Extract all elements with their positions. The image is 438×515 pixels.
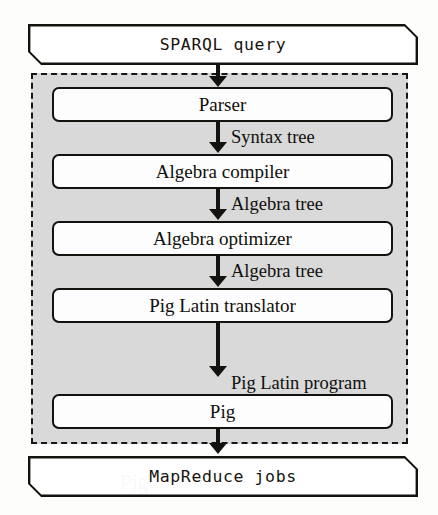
stage-box-algebra-optimizer[interactable]: Algebra optimizer bbox=[52, 221, 393, 256]
edge-label-pig-latin-program: Pig Latin program bbox=[231, 373, 367, 394]
stage-label-parser: Parser bbox=[199, 94, 246, 116]
arrow-parser-to-compiler-head bbox=[209, 142, 227, 153]
arrow-translator-to-pig-shaft bbox=[216, 323, 220, 371]
mapreduce-jobs-banner: MapReduce jobs bbox=[28, 456, 418, 497]
stage-box-pig-latin-translator[interactable]: Pig Latin translator bbox=[52, 288, 393, 323]
sparql-query-banner: SPARQL query bbox=[28, 24, 418, 65]
arrow-pig-to-output-head bbox=[209, 443, 227, 454]
arrow-input-to-parser-head bbox=[209, 76, 227, 87]
stage-box-pig[interactable]: Pig bbox=[52, 394, 393, 429]
stage-label-pig-latin-translator: Pig Latin translator bbox=[149, 295, 296, 317]
arrow-compiler-to-optimizer-head bbox=[209, 209, 227, 220]
sparql-query-label: SPARQL query bbox=[160, 35, 286, 54]
edge-label-syntax-tree: Syntax tree bbox=[231, 127, 315, 148]
stage-box-parser[interactable]: Parser bbox=[52, 87, 393, 122]
stage-label-algebra-compiler: Algebra compiler bbox=[156, 161, 289, 183]
mapreduce-jobs-label: MapReduce jobs bbox=[149, 467, 296, 486]
edge-label-algebra-tree-2: Algebra tree bbox=[231, 261, 323, 282]
stage-box-algebra-compiler[interactable]: Algebra compiler bbox=[52, 154, 393, 189]
diagram-canvas: Algebra compiler Pig SPARQL query Parser… bbox=[0, 0, 438, 515]
arrow-translator-to-pig-head bbox=[209, 366, 227, 377]
arrow-optimizer-to-translator-head bbox=[209, 276, 227, 287]
edge-label-algebra-tree-1: Algebra tree bbox=[231, 194, 323, 215]
stage-label-algebra-optimizer: Algebra optimizer bbox=[153, 228, 292, 250]
stage-label-pig: Pig bbox=[210, 401, 235, 423]
